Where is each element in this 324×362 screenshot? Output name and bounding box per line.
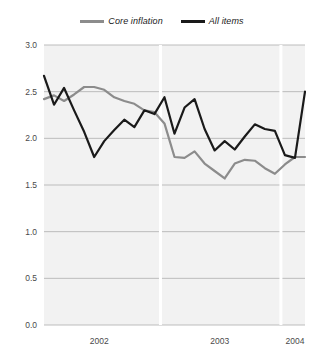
y-axis-tick-labels: 0.00.51.01.52.02.53.0 bbox=[25, 40, 37, 330]
y-tick-label: 2.0 bbox=[25, 133, 37, 143]
y-tick-label: 0.0 bbox=[25, 320, 37, 330]
x-tick-label: 2002 bbox=[90, 336, 109, 346]
x-tick-label: 2003 bbox=[210, 336, 229, 346]
y-tick-label: 1.0 bbox=[25, 227, 37, 237]
x-tick-label: 2004 bbox=[286, 336, 305, 346]
y-tick-label: 1.5 bbox=[25, 180, 37, 190]
inflation-line-chart: Core inflation All items 0.00.51.01.52.0… bbox=[0, 0, 324, 362]
plot-area: 0.00.51.01.52.02.53.0 200220032004 bbox=[0, 0, 324, 362]
y-tick-label: 2.5 bbox=[25, 87, 37, 97]
y-tick-label: 0.5 bbox=[25, 273, 37, 283]
y-tick-label: 3.0 bbox=[25, 40, 37, 50]
x-axis-tick-labels: 200220032004 bbox=[90, 336, 305, 346]
